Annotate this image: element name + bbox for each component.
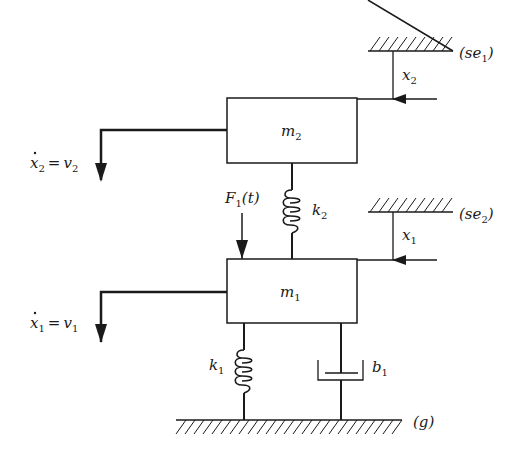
ground-g: (g): [176, 413, 434, 434]
spring-k2: k2: [283, 163, 327, 259]
k2-coil-icon: [283, 190, 300, 233]
ground-hatch: [176, 420, 402, 434]
g-label: (g): [413, 413, 434, 431]
v1-dot: [34, 312, 36, 314]
force-F1: F1(t): [224, 189, 260, 259]
se1-line: [368, 0, 453, 51]
F1-label: F1(t): [224, 189, 260, 209]
se1-label: (se1): [459, 44, 494, 64]
x1-label: x1: [402, 226, 417, 246]
v2-velocity: x2=v2: [30, 130, 227, 182]
F1-arrow-icon: [236, 240, 248, 259]
mechanical-system-diagram: (se1) x2 m2 x2=v2 k2 F1(t): [0, 0, 514, 461]
v2-arrow-icon: [95, 163, 107, 182]
m2-label: m2: [281, 122, 302, 142]
m1-label: m1: [280, 283, 301, 303]
se2-hatch: [370, 198, 452, 212]
se1-hatch: [370, 37, 452, 51]
v1-line: [101, 292, 227, 342]
v2-label: x2=v2: [30, 154, 78, 174]
x2-label: x2: [402, 66, 417, 86]
k1-label: k1: [209, 356, 224, 376]
v1-arrow-icon: [95, 324, 107, 343]
x2-displacement: x2: [393, 51, 417, 99]
v1-label: x1=v1: [30, 314, 78, 334]
mass-m1: m1: [227, 259, 437, 323]
reference-surface-se2: (se2): [368, 198, 494, 225]
b1-label: b1: [372, 358, 388, 378]
reference-surface-se1: (se1): [368, 0, 494, 64]
spring-k1: k1: [209, 323, 252, 420]
mass-m2: m2: [227, 98, 437, 163]
damper-b1: b1: [318, 323, 388, 420]
x1-displacement: x1: [393, 212, 417, 260]
v1-velocity: x1=v1: [30, 292, 227, 343]
se2-label: (se2): [459, 205, 494, 225]
v2-line: [101, 130, 227, 180]
k2-label: k2: [312, 201, 327, 221]
k1-coil-icon: [235, 350, 252, 393]
v2-dot: [34, 152, 36, 154]
